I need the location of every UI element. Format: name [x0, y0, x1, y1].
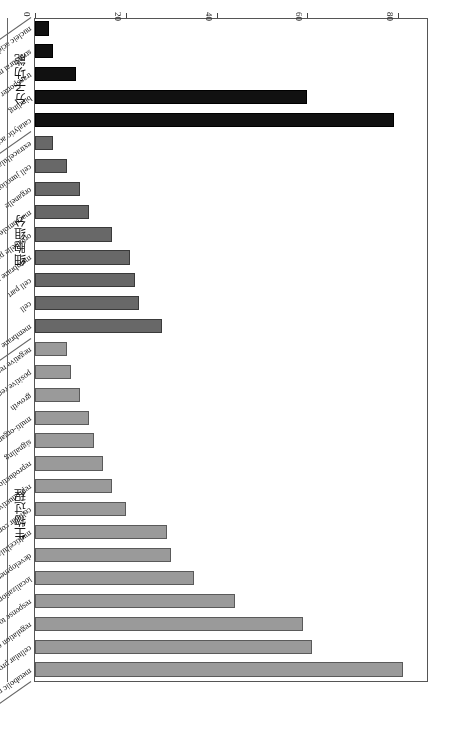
bar-row	[33, 296, 427, 310]
axis-tick	[217, 13, 218, 18]
bar	[35, 90, 307, 104]
bar	[35, 67, 76, 81]
bar-row	[33, 388, 427, 402]
bar-row	[33, 319, 427, 333]
group-name: 生物过程	[13, 488, 30, 540]
bar-row	[33, 571, 427, 585]
axis-tick	[35, 13, 36, 18]
value-axis: 020406080	[34, 16, 428, 18]
bar-row	[33, 250, 427, 264]
bar	[35, 296, 139, 310]
plot-frame	[34, 18, 428, 682]
bar-row	[33, 342, 427, 356]
bar-row	[33, 273, 427, 287]
bar	[35, 456, 103, 470]
bar-row	[33, 617, 427, 631]
bar	[35, 136, 53, 150]
bar-row	[33, 525, 427, 539]
bar	[35, 250, 130, 264]
axis-tick-label: 80	[385, 12, 395, 21]
bar	[35, 434, 94, 448]
bar-row	[33, 502, 427, 516]
bar-row	[33, 136, 427, 150]
bar	[35, 365, 71, 379]
category-label: metabolic process	[0, 666, 34, 708]
bar-row	[33, 434, 427, 448]
bar	[35, 411, 89, 425]
category-label: cell part	[6, 277, 33, 300]
bar	[35, 525, 167, 539]
bar	[35, 205, 89, 219]
axis-tick	[307, 13, 308, 18]
bar-row	[33, 456, 427, 470]
bar	[35, 388, 80, 402]
bar-row	[33, 159, 427, 173]
category-label: cell	[19, 300, 34, 314]
bar	[35, 662, 403, 676]
bar-row	[33, 662, 427, 676]
axis-tick	[398, 13, 399, 18]
bar-row	[33, 548, 427, 562]
bar-row	[33, 44, 427, 58]
rotated-figure-wrapper: 020406080 基因数量 metabolic processcellular…	[0, 0, 462, 738]
axis-tick	[126, 13, 127, 18]
bar-row	[33, 365, 427, 379]
bar	[35, 273, 135, 287]
bar-row	[33, 227, 427, 241]
bar-row	[33, 594, 427, 608]
bars-container	[33, 17, 427, 681]
bar	[35, 548, 171, 562]
bar-row	[33, 640, 427, 654]
bar-row	[33, 90, 427, 104]
group-name: 分子功能	[13, 53, 30, 105]
axis-tick-label: 20	[113, 12, 123, 21]
bar-row	[33, 205, 427, 219]
bar	[35, 502, 126, 516]
bar-row	[33, 182, 427, 196]
bar-row	[33, 113, 427, 127]
bar	[35, 44, 53, 58]
bar	[35, 182, 80, 196]
bar	[35, 640, 312, 654]
bar	[35, 617, 303, 631]
bar-row	[33, 67, 427, 81]
axis-tick-label: 40	[204, 12, 214, 21]
bar	[35, 227, 112, 241]
bar	[35, 319, 162, 333]
go-enrichment-figure: 020406080 基因数量 metabolic processcellular…	[0, 0, 462, 738]
bar	[35, 342, 67, 356]
bar	[35, 479, 112, 493]
bar	[35, 113, 394, 127]
bar	[35, 594, 235, 608]
group-name: 细胞组分	[13, 214, 30, 266]
bar	[35, 21, 49, 35]
bar-row	[33, 479, 427, 493]
bar	[35, 571, 194, 585]
bar	[35, 159, 67, 173]
bar-row	[33, 411, 427, 425]
axis-tick-label: 60	[294, 12, 304, 21]
group-bracket-rule	[7, 18, 8, 682]
category-label: growth	[9, 392, 34, 413]
bar-row	[33, 21, 427, 35]
